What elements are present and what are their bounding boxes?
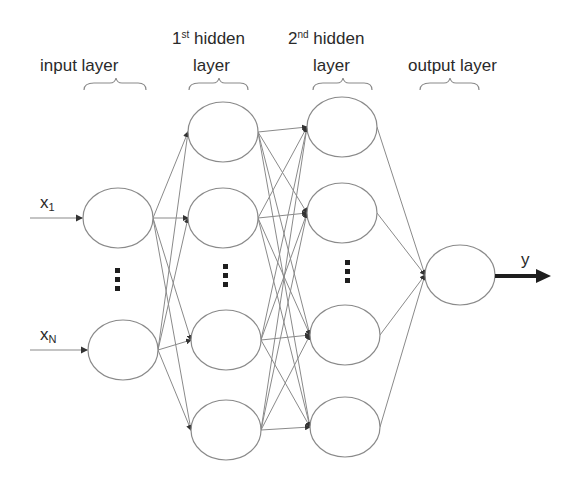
input-var-xn-sub: N: [49, 333, 57, 345]
hidden2-layer-label: 2nd hidden: [288, 30, 364, 47]
output-layer-brace: [420, 78, 479, 90]
input-var-x1: x1: [40, 194, 55, 213]
connection-edge: [380, 275, 425, 427]
connection-edge: [377, 213, 425, 275]
hidden1-word: hidden: [189, 29, 245, 48]
input-arrows: [30, 218, 87, 350]
layer-braces: [84, 78, 479, 90]
connection-edge: [258, 213, 307, 218]
input-var-x1-sub: 1: [49, 201, 55, 213]
input-layer-label: input layer: [40, 57, 118, 74]
hidden1-ellipsis-icon: [223, 264, 228, 291]
connections: [153, 127, 425, 430]
connection-edge: [377, 127, 425, 275]
connection-edge: [153, 132, 188, 218]
input-layer-brace: [84, 78, 146, 90]
hidden2-neuron-3: [310, 305, 380, 365]
neurons: [83, 97, 495, 460]
output-neuron-1: [425, 245, 495, 305]
hidden2-neuron-2: [307, 183, 377, 243]
hidden1-neuron-3: [191, 310, 261, 370]
neural-network-diagram: input layer 1st hidden layer 2nd hidden …: [0, 0, 576, 483]
connection-edge: [158, 340, 191, 350]
hidden2-neuron-1: [307, 97, 377, 157]
connection-edge: [380, 275, 425, 335]
output-var-y: y: [521, 251, 530, 268]
output-arrow: [495, 269, 551, 283]
input-var-xn: xN: [40, 326, 56, 345]
input-neuron-2: [88, 320, 158, 380]
input-var-x1-name: x: [40, 193, 49, 212]
input-var-xn-name: x: [40, 325, 49, 344]
hidden2-layer-label-line2: layer: [313, 57, 350, 74]
connection-edge: [261, 427, 310, 430]
hidden1-neuron-2: [188, 188, 258, 248]
connection-edge: [158, 350, 191, 430]
hidden1-layer-label: 1st hidden: [172, 30, 245, 47]
hidden1-neuron-4: [191, 400, 261, 460]
hidden2-neuron-4: [310, 397, 380, 457]
hidden1-neuron-1: [188, 102, 258, 162]
hidden2-layer-brace: [313, 78, 372, 90]
input-neuron-1: [83, 188, 153, 248]
hidden2-ellipsis-icon: [345, 260, 350, 287]
hidden1-layer-label-line2: layer: [193, 57, 230, 74]
hidden2-word: hidden: [309, 29, 365, 48]
hidden1-layer-brace: [189, 78, 248, 90]
connection-edge: [258, 127, 307, 132]
input-ellipsis-icon: [115, 268, 120, 295]
connection-edge: [261, 335, 310, 340]
output-layer-label: output layer: [408, 57, 497, 74]
hidden2-ordinal: nd: [297, 29, 308, 40]
